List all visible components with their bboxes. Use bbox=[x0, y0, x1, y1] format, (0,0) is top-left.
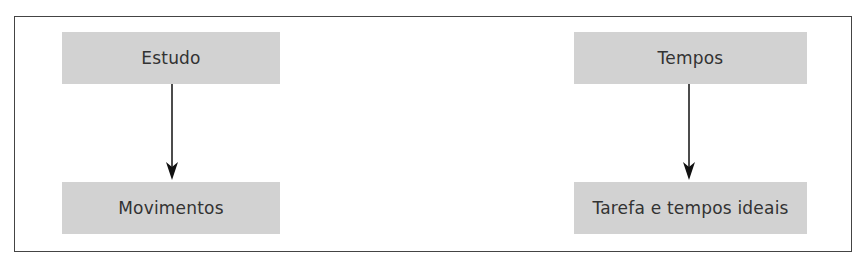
node-tarefa: Tarefa e tempos ideais bbox=[574, 182, 807, 234]
arrow-estudo-movimentos bbox=[164, 84, 180, 182]
node-label: Tempos bbox=[658, 48, 724, 68]
node-estudo: Estudo bbox=[62, 32, 280, 84]
node-label: Tarefa e tempos ideais bbox=[592, 198, 788, 218]
node-movimentos: Movimentos bbox=[62, 182, 280, 234]
node-label: Movimentos bbox=[118, 198, 224, 218]
node-label: Estudo bbox=[141, 48, 200, 68]
node-tempos: Tempos bbox=[574, 32, 807, 84]
arrow-tempos-tarefa bbox=[681, 84, 697, 182]
